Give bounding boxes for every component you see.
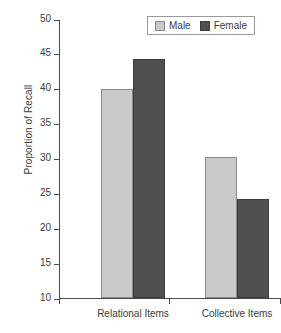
male-swatch-icon — [155, 21, 165, 31]
bar-female-relational-items — [133, 59, 165, 298]
y-tick-label: 25 — [40, 187, 51, 198]
x-tick — [280, 299, 281, 304]
y-tick-label: 15 — [40, 257, 51, 268]
y-tick: 40 — [54, 89, 59, 90]
plot-area: 504540353025201510 Relational ItemsColle… — [59, 20, 281, 299]
category-label-1: Collective Items — [202, 308, 273, 319]
y-tick: 25 — [54, 194, 59, 195]
x-axis-line — [59, 298, 281, 299]
y-tick-label: 10 — [40, 292, 51, 303]
y-axis-title: Proportion of Recall — [23, 50, 34, 210]
y-tick: 20 — [54, 229, 59, 230]
y-tick: 45 — [54, 54, 59, 55]
y-tick-label: 20 — [40, 222, 51, 233]
y-tick: 50 — [54, 20, 59, 21]
caption-sliver — [8, 326, 273, 333]
bar-male-relational-items — [101, 89, 133, 298]
bar-female-collective-items — [237, 199, 269, 298]
y-tick: 35 — [54, 124, 59, 125]
y-tick-label: 40 — [40, 82, 51, 93]
category-label-0: Relational Items — [97, 308, 169, 319]
female-swatch-icon — [200, 21, 210, 31]
y-tick: 15 — [54, 264, 59, 265]
y-tick-label: 45 — [40, 47, 51, 58]
y-tick-label: 35 — [40, 117, 51, 128]
x-tick — [59, 299, 60, 304]
y-tick: 30 — [54, 159, 59, 160]
legend-label-female: Female — [214, 20, 247, 31]
chart-legend: Male Female — [147, 16, 255, 35]
legend-entry-male: Male — [155, 20, 191, 31]
y-axis-line — [59, 20, 60, 299]
y-tick-label: 50 — [40, 13, 51, 24]
x-tick — [169, 299, 170, 304]
legend-label-male: Male — [169, 20, 191, 31]
bar-chart-figure: Proportion of Recall 504540353025201510 … — [0, 0, 281, 333]
y-tick-label: 30 — [40, 152, 51, 163]
bar-male-collective-items — [205, 157, 237, 298]
legend-entry-female: Female — [200, 20, 247, 31]
